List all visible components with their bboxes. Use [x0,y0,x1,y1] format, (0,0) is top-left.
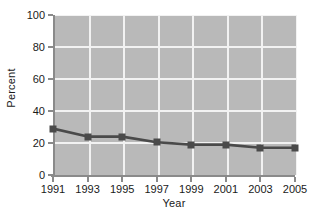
x-axis-tick-label: 2001 [214,184,238,195]
data-point-marker [222,141,229,148]
y-axis-tick-label: 60 [0,74,45,85]
data-point-marker [119,133,126,140]
data-point-marker [257,144,264,151]
data-point-marker [188,141,195,148]
x-axis-tick-mark [190,177,192,182]
y-axis-tick-label: 80 [0,42,45,53]
x-axis-tick-mark [225,177,227,182]
x-axis-tick-label: 1999 [179,184,203,195]
y-axis-tick-label: 0 [0,170,45,181]
x-axis-tick-label: 2005 [283,184,307,195]
data-point-marker [153,139,160,146]
x-axis-tick-mark [259,177,261,182]
x-axis-tick-label: 1991 [41,184,65,195]
data-point-marker [292,144,299,151]
y-axis-tick-label: 40 [0,106,45,117]
x-axis-tick-label: 1997 [144,184,168,195]
x-axis-tick-label: 1995 [110,184,134,195]
x-axis-tick-mark [156,177,158,182]
y-axis-tick-label: 100 [0,10,45,21]
y-axis-tick-label: 20 [0,138,45,149]
x-axis-tick-label: 2003 [248,184,272,195]
data-series-percent [53,15,295,175]
x-axis-tick-label: 1993 [75,184,99,195]
line-chart: Percent 020406080100 1991199319951997199… [0,0,314,222]
y-axis-tick-labels: 020406080100 [0,0,45,222]
x-axis-tick-mark [294,177,296,182]
x-axis-tick-mark [87,177,89,182]
data-point-marker [84,133,91,140]
x-axis-tick-mark [52,177,54,182]
x-axis-tick-mark [121,177,123,182]
x-axis-title: Year [53,197,295,209]
data-point-marker [50,125,57,132]
